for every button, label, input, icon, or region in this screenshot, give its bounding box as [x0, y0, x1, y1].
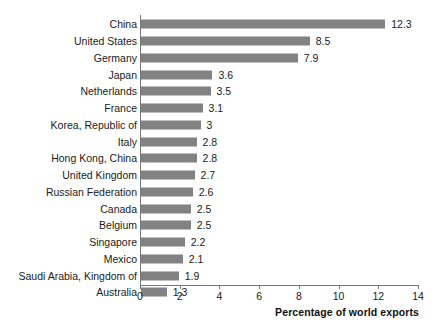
bar	[141, 271, 179, 280]
bar-category-label: Russian Federation	[46, 186, 137, 197]
x-tick-label: 12	[372, 290, 384, 302]
bar-value-label: 2.2	[191, 237, 206, 248]
bar-category-label: Italy	[118, 136, 137, 147]
bar-category-label: Japan	[108, 69, 137, 80]
bar-row: Korea, Republic of3	[0, 117, 440, 134]
bar-category-label: Hong Kong, China	[51, 153, 137, 164]
x-tick-mark	[418, 285, 419, 289]
bar-chart: China12.3United States8.5Germany7.9Japan…	[0, 0, 440, 327]
x-tick-label: 14	[412, 290, 424, 302]
x-tick-mark	[339, 285, 340, 289]
x-tick-label: 8	[296, 290, 302, 302]
bar	[141, 288, 167, 297]
bar-category-label: China	[110, 19, 137, 30]
bar-value-label: 3.6	[218, 69, 233, 80]
bar-category-label: Mexico	[104, 253, 137, 264]
bar-value-label: 3.1	[209, 103, 224, 114]
bar-category-label: France	[104, 103, 137, 114]
bar	[141, 204, 191, 213]
bar-row: Singapore2.2	[0, 234, 440, 251]
bar-value-label: 2.8	[203, 153, 218, 164]
bar-category-label: United States	[74, 36, 137, 47]
bar-category-label: Belgium	[99, 220, 137, 231]
bar-row: Belgium2.5	[0, 217, 440, 234]
bar	[141, 20, 385, 29]
bar-row: Hong Kong, China2.8	[0, 150, 440, 167]
bar-value-label: 12.3	[391, 19, 411, 30]
x-axis-title: Percentage of world exports	[0, 306, 419, 318]
bar-value-label: 7.9	[304, 52, 319, 63]
bar-value-label: 2.5	[197, 203, 212, 214]
x-tick-label: 4	[217, 290, 223, 302]
bar-category-label: United Kingdom	[62, 170, 137, 181]
bar	[141, 120, 201, 129]
bar	[141, 53, 298, 62]
bar-value-label: 1.9	[185, 270, 200, 281]
bar-row: Italy2.8	[0, 133, 440, 150]
bar-row: France3.1	[0, 100, 440, 117]
bar	[141, 171, 195, 180]
bar-value-label: 8.5	[316, 36, 331, 47]
x-tick-label: 10	[333, 290, 345, 302]
bar	[141, 37, 310, 46]
bar-row: Mexico2.1	[0, 251, 440, 268]
bar-category-label: Canada	[100, 203, 137, 214]
bar-category-label: Netherlands	[80, 86, 137, 97]
bar	[141, 154, 197, 163]
bar	[141, 187, 193, 196]
x-tick-label: 6	[256, 290, 262, 302]
bar	[141, 70, 212, 79]
bar-category-label: Australia	[96, 287, 137, 298]
bar-value-label: 3	[207, 119, 213, 130]
bar-row: Japan3.6	[0, 66, 440, 83]
x-tick-mark	[299, 285, 300, 289]
x-tick-mark	[140, 285, 141, 289]
bar	[141, 104, 203, 113]
x-tick-mark	[259, 285, 260, 289]
bar-category-label: Singapore	[89, 237, 137, 248]
bar	[141, 137, 197, 146]
bar-value-label: 2.1	[189, 253, 204, 264]
bar-row: Germany7.9	[0, 50, 440, 67]
x-tick-mark	[378, 285, 379, 289]
bar-row: Saudi Arabia, Kingdom of1.9	[0, 267, 440, 284]
plot-area: China12.3United States8.5Germany7.9Japan…	[0, 0, 440, 327]
bar-row: Canada2.5	[0, 200, 440, 217]
bar-row: Russian Federation2.6	[0, 184, 440, 201]
bar	[141, 238, 185, 247]
bar-value-label: 2.8	[203, 136, 218, 147]
x-tick-mark	[180, 285, 181, 289]
bar-category-label: Germany	[94, 52, 137, 63]
bar	[141, 87, 211, 96]
bar-value-label: 2.7	[201, 170, 216, 181]
bar	[141, 221, 191, 230]
x-tick-mark	[219, 285, 220, 289]
bar-value-label: 2.5	[197, 220, 212, 231]
bar-category-label: Korea, Republic of	[51, 119, 137, 130]
bar-row: United States8.5	[0, 33, 440, 50]
x-tick-label: 0	[137, 290, 143, 302]
x-tick-label: 2	[177, 290, 183, 302]
bar	[141, 254, 183, 263]
bar-rows: China12.3United States8.5Germany7.9Japan…	[0, 0, 440, 285]
bar-category-label: Saudi Arabia, Kingdom of	[19, 270, 138, 281]
bar-row: China12.3	[0, 16, 440, 33]
bar-value-label: 3.5	[217, 86, 232, 97]
bar-value-label: 2.6	[199, 186, 214, 197]
bar-row: United Kingdom2.7	[0, 167, 440, 184]
bar-row: Netherlands3.5	[0, 83, 440, 100]
